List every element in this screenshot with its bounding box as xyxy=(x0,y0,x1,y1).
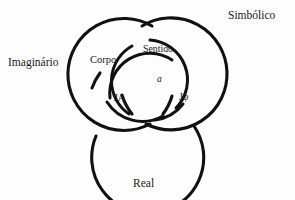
imaginary-ring-arc-tail xyxy=(163,96,172,114)
label-real: Real xyxy=(133,178,154,190)
knot-graphic xyxy=(0,0,295,200)
inner-arc-bottom-left xyxy=(107,102,163,121)
imaginary-ring-arc-main xyxy=(68,18,152,130)
symbolic-ring-arc-main xyxy=(142,18,227,130)
label-imaginario: Imaginário xyxy=(8,57,58,69)
label-simbolico: Simbólico xyxy=(228,10,275,22)
real-ring-arc-tail xyxy=(92,73,100,88)
label-object-a: a xyxy=(157,75,162,85)
label-ja: JA xyxy=(114,93,125,103)
borromean-knot-diagram: Imaginário Simbólico Real Corpo Sentido … xyxy=(0,0,295,200)
label-sentido: Sentido xyxy=(143,44,173,54)
label-corpo: Corpo xyxy=(90,55,116,66)
label-jphi: Jφ xyxy=(179,92,188,102)
